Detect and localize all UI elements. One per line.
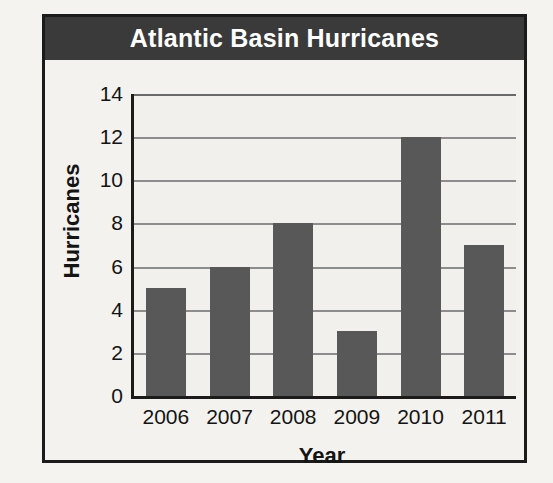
y-tick-label: 10 [100,168,123,192]
bar-2006 [146,288,186,396]
bar-2011 [464,245,504,396]
y-tick-label: 14 [100,82,123,106]
x-tick-label: 2011 [462,405,507,429]
bar-2009 [337,331,377,396]
x-tick-label: 2007 [206,405,253,429]
chart-figure-frame: Atlantic Basin Hurricanes Hurricanes 024… [42,14,527,463]
y-tick-label: 12 [100,125,123,149]
chart-title-band: Atlantic Basin Hurricanes [45,17,524,60]
y-tick-label: 4 [111,298,123,322]
bar-2007 [210,267,250,396]
y-axis-title: Hurricanes [59,131,85,311]
x-tick-label: 2010 [397,405,444,429]
y-tick-label: 2 [111,341,123,365]
plot-area: 02468101214 200620072008200920102011 [131,94,516,399]
x-axis-title: Year [131,443,513,469]
chart-body: Hurricanes 02468101214 20062007200820092… [45,60,524,460]
y-tick-label: 8 [111,211,123,235]
x-tick-label: 2008 [270,405,317,429]
chart-title: Atlantic Basin Hurricanes [130,24,439,53]
x-tick-label: 2009 [333,405,380,429]
bar-2010 [401,137,441,396]
bar-2008 [273,223,313,396]
x-tick-label: 2006 [142,405,189,429]
y-tick-label: 6 [111,255,123,279]
y-tick-label: 0 [111,384,123,408]
bars-layer [134,94,516,396]
